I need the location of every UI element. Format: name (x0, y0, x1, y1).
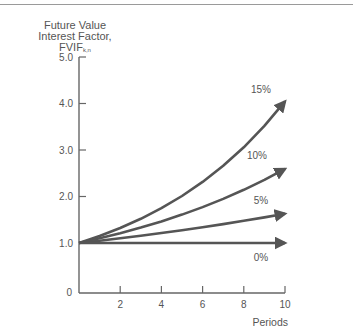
x-tick-label: 6 (200, 299, 206, 310)
x-tick-label: 4 (159, 299, 165, 310)
series-line-15pct (79, 101, 285, 243)
y-tick-label: 3.0 (59, 145, 73, 156)
series-label-5pct: 5% (254, 195, 269, 206)
series-lines (79, 101, 285, 243)
y-tick-label: 5.0 (59, 52, 73, 63)
x-tick-label: 10 (279, 299, 291, 310)
origin-label: 0 (66, 287, 72, 298)
x-tick-label: 2 (117, 299, 123, 310)
series-label-10pct: 10% (247, 150, 267, 161)
x-axis-label: Periods (252, 316, 288, 328)
y-tick-label: 1.0 (59, 238, 73, 249)
fvif-line-chart: 1.02.03.04.05.02468100Periods 15%10%5%0% (0, 0, 353, 333)
y-tick-label: 2.0 (59, 191, 73, 202)
series-label-15pct: 15% (251, 84, 271, 95)
series-line-5pct (79, 214, 285, 243)
x-tick-label: 8 (241, 299, 247, 310)
y-tick-label: 4.0 (59, 98, 73, 109)
series-label-0pct: 0% (254, 252, 269, 263)
series-labels: 15%10%5%0% (247, 84, 271, 263)
